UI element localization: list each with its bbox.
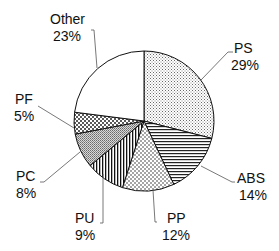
- label-abs-name: ABS: [237, 170, 265, 186]
- label-pc-name: PC: [16, 168, 35, 184]
- leader-pf: [38, 106, 74, 128]
- leader-ps: [201, 52, 233, 80]
- label-pc-pct: 8%: [16, 185, 36, 201]
- label-other-name: Other: [50, 11, 85, 27]
- label-pf-name: PF: [15, 91, 33, 107]
- leader-other: [91, 30, 97, 68]
- leader-pc: [40, 152, 80, 182]
- slice-other: [75, 51, 144, 121]
- label-pp-name: PP: [167, 210, 186, 226]
- pie-slices: [74, 51, 214, 191]
- label-pu-name: PU: [75, 210, 94, 226]
- label-ps-pct: 29%: [231, 57, 259, 73]
- leader-pp: [153, 190, 157, 222]
- leader-abs: [201, 166, 235, 182]
- label-pu-pct: 9%: [75, 227, 95, 243]
- label-pf-pct: 5%: [14, 108, 34, 124]
- leader-pu: [100, 174, 103, 223]
- pie-chart: PS 29% ABS 14% PP 12% PU 9% PC 8% PF 5% …: [0, 0, 279, 251]
- label-pp-pct: 12%: [162, 227, 190, 243]
- label-other-pct: 23%: [53, 28, 81, 44]
- label-ps-name: PS: [234, 40, 253, 56]
- label-abs-pct: 14%: [239, 187, 267, 203]
